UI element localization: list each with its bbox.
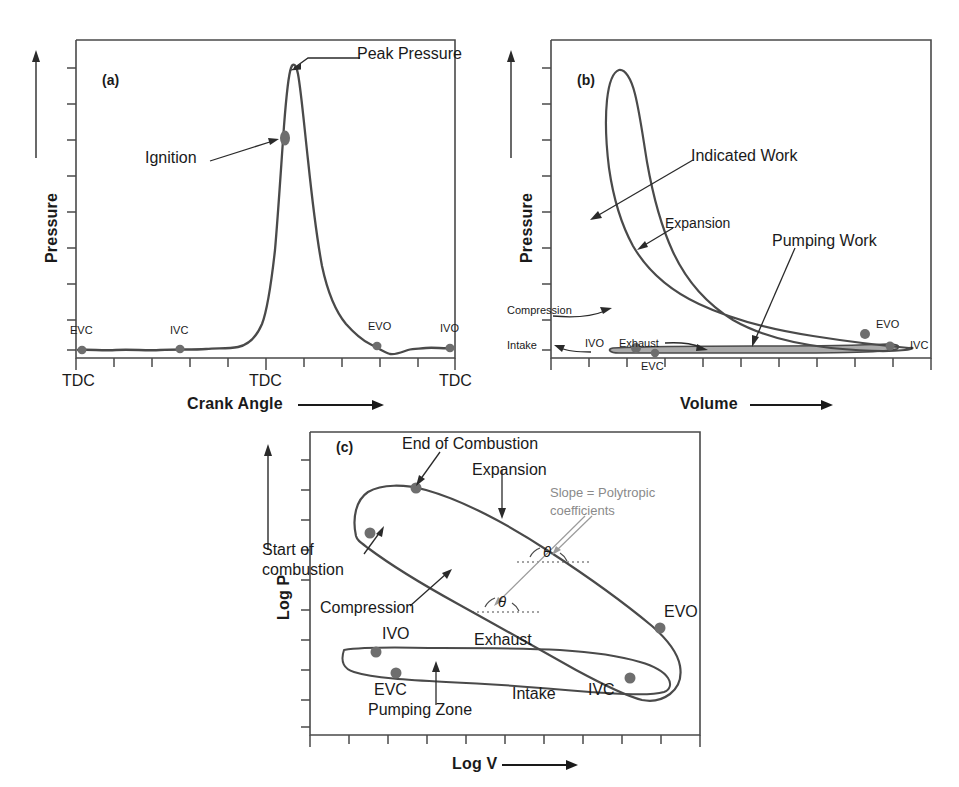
- panel-c-label-ivo: IVO: [382, 626, 410, 643]
- theta-symbol-lower: θ: [498, 594, 506, 610]
- pumping-zone-label: Pumping Zone: [368, 702, 472, 719]
- panel-b-intake-label: Intake: [507, 340, 537, 352]
- panel-a-y-axis-title: Pressure: [44, 193, 61, 263]
- panel-a-label-ivo: IVO: [440, 323, 459, 335]
- panel-b-y-arrow: [507, 50, 515, 158]
- ignition-label: Ignition: [145, 150, 197, 167]
- panel-a-x-ticks: [76, 358, 455, 370]
- peak-pressure-leader: [290, 58, 360, 71]
- panel-b-expansion-label: Expansion: [665, 216, 730, 231]
- end-of-combustion-label: End of Combustion: [402, 436, 538, 453]
- panel-b-exhaust-label: Exhaust: [619, 338, 659, 350]
- slope-leaders: [494, 516, 592, 606]
- indicated-work-leader: [590, 160, 693, 220]
- panel-a-xtick-tdc-1: TDC: [249, 373, 282, 390]
- panel-b-compression-label: Compression: [507, 305, 572, 317]
- panel-c-y-axis-title: Log P: [276, 575, 293, 620]
- panel-a-label-ivc: IVC: [170, 325, 188, 337]
- panel-b-label-evc: EVC: [641, 361, 664, 373]
- peak-pressure-label: Peak Pressure: [357, 46, 462, 63]
- panel-c-intake-label: Intake: [512, 686, 556, 703]
- end-of-combustion-leader: [416, 452, 440, 486]
- panel-c-compression-leader: [410, 569, 452, 606]
- panel-a-pressure-curve: [78, 65, 453, 355]
- panel-a-label-evc: EVC: [70, 325, 93, 337]
- panel-a-markers: [78, 131, 455, 355]
- panel-c-exhaust-label: Exhaust: [474, 632, 532, 649]
- panel-b: (b) Indicated Work Pumping Work Expansio…: [495, 28, 950, 418]
- ignition-leader: [210, 138, 279, 161]
- pumping-zone-leader: [432, 661, 440, 705]
- panel-b-label-ivc: IVC: [910, 340, 928, 352]
- panel-c-expansion-label: Expansion: [472, 462, 547, 479]
- panel-b-x-axis-title: Volume: [680, 396, 738, 413]
- panel-c-tag: (c): [336, 440, 353, 455]
- panel-b-y-axis-title: Pressure: [519, 193, 536, 263]
- panel-a-x-axis-title: Crank Angle: [187, 396, 283, 413]
- panel-a-xtick-tdc-0: TDC: [62, 373, 95, 390]
- panel-c-y-arrow: [264, 444, 272, 550]
- panel-c-x-ticks: [310, 735, 700, 747]
- start-of-combustion-label-line1: Start of: [262, 542, 314, 559]
- panel-b-pv-loop: [606, 70, 913, 351]
- panel-a-tag: (a): [102, 73, 119, 88]
- pumping-work-label: Pumping Work: [772, 233, 877, 250]
- panel-a-label-evo: EVO: [368, 321, 391, 333]
- theta-symbol-upper: θ: [543, 544, 551, 560]
- panel-c-label-ivc: IVC: [588, 682, 615, 699]
- panel-a-xtick-tdc-2: TDC: [439, 373, 472, 390]
- indicated-work-label: Indicated Work: [691, 148, 797, 165]
- slope-polytropic-label-line2: coefficients: [550, 504, 615, 519]
- panel-c: (c) End of Combustion Expansion Slope = …: [240, 420, 720, 787]
- slope-polytropic-label-line1: Slope = Polytropic: [550, 486, 655, 501]
- panel-b-x-ticks: [551, 358, 931, 370]
- panel-c-compression-label: Compression: [320, 600, 414, 617]
- panel-c-label-evc: EVC: [374, 682, 407, 699]
- panel-c-main-loop: [355, 486, 681, 701]
- panel-c-x-axis-title: Log V: [452, 756, 497, 773]
- panel-c-y-ticks: [301, 460, 310, 727]
- panel-a: (a) Peak Pressure Ignition EVC IVC EVO I…: [20, 28, 470, 418]
- panel-c-label-evo: EVO: [664, 604, 698, 621]
- panel-c-markers: [365, 483, 666, 684]
- panel-a-y-arrow: [32, 50, 40, 158]
- panel-a-y-ticks: [67, 68, 76, 350]
- panel-b-label-evo: EVO: [876, 319, 899, 331]
- panel-b-tag: (b): [577, 73, 595, 88]
- panel-a-plot: [20, 28, 470, 418]
- panel-b-label-ivo: IVO: [585, 338, 604, 350]
